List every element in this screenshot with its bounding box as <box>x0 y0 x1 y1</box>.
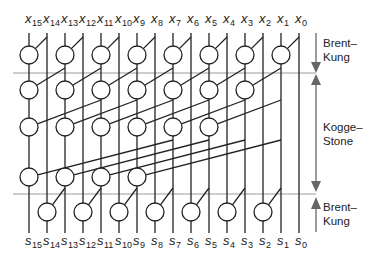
prefix-node-r3-b9 <box>128 118 146 136</box>
prefix-node-r1-b11 <box>92 46 110 64</box>
carry-wire <box>160 188 173 205</box>
carry-wire <box>110 140 245 175</box>
carry-wire <box>35 37 47 49</box>
prefix-node-r5-b12 <box>74 203 92 221</box>
input-label-x10: x10 <box>114 11 132 28</box>
output-label-s11: s11 <box>97 233 113 250</box>
input-label-x6: x6 <box>186 11 199 28</box>
prefix-node-r5-b10 <box>110 203 128 221</box>
prefix-node-r4-b11 <box>92 168 110 186</box>
arrow-down-icon <box>311 181 321 192</box>
carry-wire <box>253 68 281 85</box>
arrow-up-icon <box>311 74 321 85</box>
label-brent-kung-top-2: Kung <box>323 51 350 63</box>
input-label-x15: x15 <box>24 11 42 28</box>
input-label-x7: x7 <box>168 11 181 28</box>
carry-wire <box>52 188 65 205</box>
prefix-node-r1-b7 <box>164 46 182 64</box>
carry-wire <box>107 37 119 49</box>
prefix-node-r5-b8 <box>146 203 164 221</box>
prefix-node-r1-b13 <box>56 46 74 64</box>
output-label-s14: s14 <box>43 233 60 250</box>
label-kogge-stone: Kogge– <box>323 121 363 133</box>
prefix-node-r3-b5 <box>200 118 218 136</box>
prefix-node-r3-b11 <box>92 118 110 136</box>
input-label-x9: x9 <box>132 11 145 28</box>
prefix-node-r2-b5 <box>200 81 218 99</box>
prefix-node-r2-b3 <box>236 81 254 99</box>
output-label-s10: s10 <box>115 233 132 250</box>
prefix-node-r2-b7 <box>164 81 182 99</box>
prefix-node-r4-b15 <box>20 168 38 186</box>
prefix-node-r2-b11 <box>92 81 110 99</box>
label-brent-kung-top: Brent– <box>323 37 357 49</box>
output-label-s8: s8 <box>151 233 163 250</box>
carry-wire <box>268 188 281 205</box>
label-brent-kung-bottom-2: Kung <box>323 215 350 227</box>
output-label-s13: s13 <box>61 233 78 250</box>
input-label-x0: x0 <box>294 11 307 28</box>
output-label-s15: s15 <box>25 233 42 250</box>
prefix-node-r5-b2 <box>254 203 272 221</box>
prefix-node-r4-b13 <box>56 168 74 186</box>
input-label-x14: x14 <box>42 11 60 28</box>
prefix-node-r1-b3 <box>236 46 254 64</box>
input-label-x4: x4 <box>222 11 235 28</box>
prefix-node-r2-b9 <box>128 81 146 99</box>
prefix-node-r3-b7 <box>164 118 182 136</box>
carry-wire <box>215 37 227 49</box>
carry-wire <box>146 140 281 175</box>
prefix-node-r3-b13 <box>56 118 74 136</box>
output-label-s4: s4 <box>223 233 235 250</box>
prefix-node-r4-b9 <box>128 168 146 186</box>
input-label-x13: x13 <box>60 11 78 28</box>
stage-legend: Brent– Kung Kogge– Stone Brent– Kung <box>311 33 363 232</box>
carry-wire <box>179 37 191 49</box>
prefix-node-r3-b15 <box>20 118 38 136</box>
input-label-x3: x3 <box>240 11 253 28</box>
prefix-node-r1-b1 <box>272 46 290 64</box>
prefix-node-r1-b15 <box>20 46 38 64</box>
input-label-x11: x11 <box>96 11 113 28</box>
label-kogge-stone-2: Stone <box>323 135 353 147</box>
prefix-node-r2-b13 <box>56 81 74 99</box>
output-label-s1: s1 <box>277 233 289 250</box>
carry-wire <box>287 37 299 49</box>
output-label-s2: s2 <box>259 233 271 250</box>
carry-wire <box>251 37 263 49</box>
output-label-s7: s7 <box>169 233 181 250</box>
input-label-x12: x12 <box>78 11 96 28</box>
prefix-node-r2-b15 <box>20 81 38 99</box>
output-label-s12: s12 <box>79 233 96 250</box>
prefix-node-r5-b14 <box>38 203 56 221</box>
carry-wire <box>88 188 101 205</box>
prefix-node-r1-b9 <box>128 46 146 64</box>
prefix-node-r5-b6 <box>182 203 200 221</box>
input-label-x5: x5 <box>204 11 217 28</box>
input-label-x8: x8 <box>150 11 163 28</box>
carry-wire <box>232 188 245 205</box>
prefix-node-r5-b4 <box>218 203 236 221</box>
carry-wire <box>71 37 83 49</box>
arrow-down-icon <box>311 62 321 73</box>
input-label-x1: x1 <box>276 11 289 28</box>
output-label-s5: s5 <box>205 233 217 250</box>
output-label-s0: s0 <box>295 233 307 250</box>
carry-wire <box>196 188 209 205</box>
output-labels: s15s14s13s12s11s10s9s8s7s6s5s4s3s2s1s0 <box>25 233 307 250</box>
carry-wire <box>143 37 155 49</box>
prefix-adder-diagram: x15x14x13x12x11x10x9x8x7x6x5x4x3x2x1x0 s… <box>0 0 378 259</box>
input-label-x2: x2 <box>258 11 271 28</box>
output-label-s3: s3 <box>241 233 253 250</box>
output-label-s6: s6 <box>187 233 199 250</box>
output-label-s9: s9 <box>133 233 145 250</box>
carry-wire <box>124 188 137 205</box>
label-brent-kung-bottom: Brent– <box>323 201 357 213</box>
prefix-node-r1-b5 <box>200 46 218 64</box>
input-labels: x15x14x13x12x11x10x9x8x7x6x5x4x3x2x1x0 <box>24 11 307 28</box>
